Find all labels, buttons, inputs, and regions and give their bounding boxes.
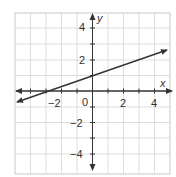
y-tick-neg2: −2 <box>70 117 83 129</box>
y-tick-4: 4 <box>79 21 85 33</box>
x-tick-2: 2 <box>120 97 126 109</box>
x-tick-neg2: −2 <box>48 97 61 109</box>
x-axis-label: x <box>159 77 166 89</box>
coordinate-plane: y x 4 2 −2 −4 −2 0 2 4 <box>0 0 176 177</box>
origin-label: 0 <box>82 96 88 108</box>
y-tick-2: 2 <box>79 54 85 66</box>
x-tick-4: 4 <box>151 97 157 109</box>
y-tick-neg4: −4 <box>70 148 83 160</box>
